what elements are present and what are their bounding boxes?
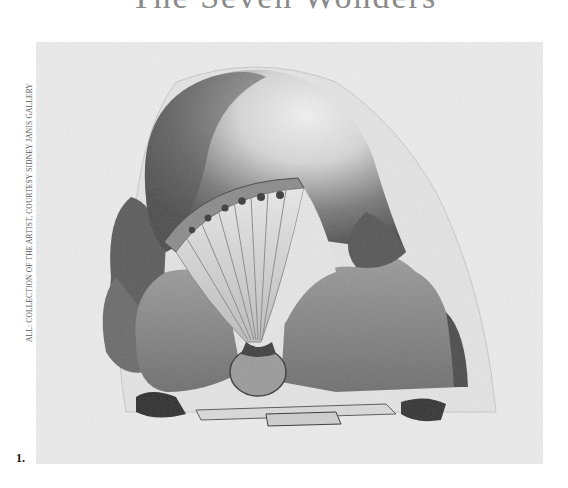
figure-number: 1. <box>16 451 25 466</box>
artwork-drawing <box>36 42 543 464</box>
photo-credit-text: ALL: COLLECTION OF THE ARTIST, COURTESY … <box>25 42 34 342</box>
drawing-illustration <box>36 42 543 464</box>
page-title: The Seven Wonders <box>0 0 568 16</box>
